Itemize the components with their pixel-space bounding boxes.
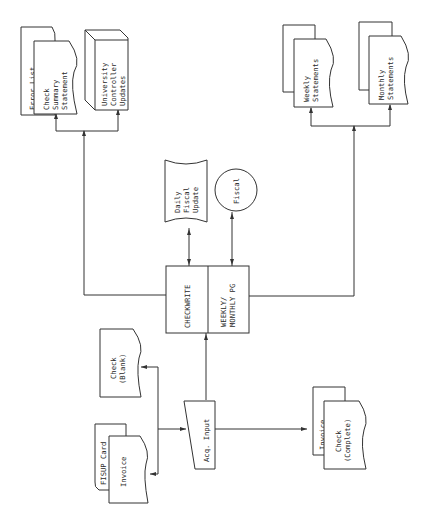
daily-fiscal-line-1: Daily bbox=[173, 191, 182, 213]
invoice-input-label: Invoice bbox=[119, 457, 128, 487]
check-complete-document: Check (Complete) bbox=[324, 401, 366, 469]
check-complete-line-2: (Complete) bbox=[343, 419, 352, 462]
check-summary-line-1: Check bbox=[42, 88, 51, 110]
daily-fiscal-line-2: Fiscal bbox=[182, 187, 191, 213]
univ-controller-line-2: Controller bbox=[109, 62, 118, 106]
weekly-monthly-line-2: MONTHLY PG bbox=[228, 284, 237, 327]
weekly-statements-document: Weekly Statements bbox=[283, 25, 334, 107]
acq-input-label: Acq. Input bbox=[202, 419, 211, 462]
checkwrite-label: CHECKWRITE bbox=[183, 285, 192, 328]
check-blank-document: Check (Blank) bbox=[100, 329, 141, 397]
invoice-input-document: Invoice bbox=[109, 436, 148, 503]
univ-controller-line-3: Updates bbox=[118, 76, 127, 106]
check-summary-line-2: Summary bbox=[51, 79, 60, 110]
monthly-statements-document: Monthly Statements bbox=[359, 22, 409, 104]
monthly-line-2: Statements bbox=[386, 57, 395, 100]
univ-controller-line-1: University bbox=[100, 62, 109, 106]
fiscal-circle: Fiscal bbox=[215, 169, 257, 211]
fisup-card-label: FISUP Card bbox=[99, 442, 108, 485]
monthly-line-1: Monthly bbox=[377, 69, 386, 100]
check-complete-line-1: Check bbox=[334, 430, 343, 452]
weekly-line-2: Statements bbox=[311, 59, 320, 102]
flowchart: Error List Check Summary Statement Unive… bbox=[0, 0, 431, 514]
daily-fiscal-update-tape: Daily Fiscal Update bbox=[165, 160, 207, 222]
weekly-line-1: Weekly bbox=[302, 75, 311, 102]
checkwrite-process: CHECKWRITE WEEKLY/ MONTHLY PG bbox=[166, 266, 249, 333]
check-summary-line-3: Statement bbox=[60, 71, 69, 110]
check-blank-line-2: (Blank) bbox=[118, 354, 127, 384]
university-controller-box: University Controller Updates bbox=[85, 30, 128, 110]
acq-input-shape: Acq. Input bbox=[184, 401, 215, 469]
fiscal-label: Fiscal bbox=[232, 178, 241, 204]
check-summary-document: Check Summary Statement bbox=[34, 41, 77, 114]
daily-fiscal-line-3: Update bbox=[191, 187, 200, 213]
check-blank-line-1: Check bbox=[109, 357, 118, 379]
weekly-monthly-line-1: WEEKLY/ bbox=[219, 297, 228, 327]
